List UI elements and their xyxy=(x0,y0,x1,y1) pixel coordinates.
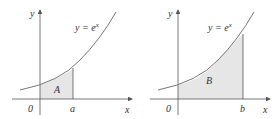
origin-label: 0 xyxy=(28,103,33,114)
shaded-region-b xyxy=(178,34,243,99)
curve-label: y = ex xyxy=(74,21,100,33)
figure-b: y y = ex B 0 b x xyxy=(150,8,270,115)
exponential-area-diagrams: y y = ex A 0 a x y y = ex B 0 b x xyxy=(0,0,276,119)
origin-label: 0 xyxy=(166,103,171,114)
curve-label: y = ex xyxy=(207,21,233,33)
bound-label: a xyxy=(70,103,75,114)
y-axis-label: y xyxy=(29,8,35,19)
y-axis-label: y xyxy=(167,8,173,19)
region-label: B xyxy=(206,75,212,86)
diagram-canvas: y y = ex A 0 a x y y = ex B 0 b x xyxy=(0,0,276,119)
bound-label: b xyxy=(240,103,245,114)
x-axis-label: x xyxy=(262,104,268,115)
figure-a: y y = ex A 0 a x xyxy=(12,8,132,115)
x-axis-label: x xyxy=(124,104,130,115)
region-label: A xyxy=(53,84,61,95)
